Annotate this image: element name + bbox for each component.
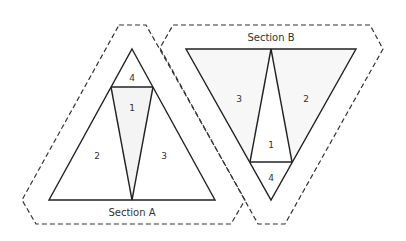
section-b-piece-3-number: 3 [236,94,242,104]
pattern-diagram: 4 1 2 3 Section A Section B 3 2 1 4 [0,0,406,241]
section-a-piece-1-number: 1 [129,103,135,113]
section-a-piece-2-number: 2 [94,151,100,161]
section-a-label: Section A [108,207,155,218]
section-a-piece-4-number: 4 [129,73,135,83]
section-b: Section B 3 2 1 4 [160,25,383,224]
section-b-piece-1-number: 1 [268,140,274,150]
section-a-piece-3-number: 3 [161,151,167,161]
section-b-piece-4-number: 4 [268,173,274,183]
section-b-label: Section B [247,32,294,43]
section-b-piece-2-number: 2 [303,94,309,104]
